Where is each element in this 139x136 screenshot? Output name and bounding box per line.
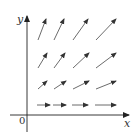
vector-field-diagram: y x 0: [0, 0, 139, 136]
vector-arrow-r2-c4: [96, 81, 116, 89]
vector-arrow-r4-c2: [54, 19, 64, 40]
vector-arrow-r3-c2: [54, 53, 65, 68]
vector-arrow-r3-c4: [96, 53, 116, 68]
vector-arrow-r2-c2: [54, 81, 66, 89]
vector-arrow-r2-c1: [38, 81, 47, 89]
origin-label: 0: [19, 115, 25, 126]
y-axis-label: y: [16, 13, 24, 26]
vector-arrow-r3-c1: [38, 53, 47, 68]
vector-arrow-r4-c4: [96, 19, 116, 40]
vector-arrow-r2-c3: [73, 81, 89, 89]
vector-arrow-r4-c3: [73, 19, 88, 40]
vector-arrow-r4-c1: [38, 19, 46, 40]
x-axis-label: x: [124, 117, 131, 130]
vector-arrows: [37, 19, 116, 105]
vector-arrow-r3-c3: [73, 53, 89, 68]
